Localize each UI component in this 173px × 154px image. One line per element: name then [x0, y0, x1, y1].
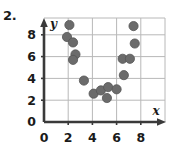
x-tick-label: 4 [88, 130, 97, 145]
x-axis-tick-labels: 0 2 4 6 8 [40, 130, 146, 145]
gridlines-group [44, 18, 165, 122]
data-point [65, 20, 74, 29]
data-point [68, 38, 77, 47]
axes-group [40, 18, 166, 126]
y-axis-tick-labels: 0 2 4 6 8 [27, 27, 36, 129]
data-point [102, 93, 111, 102]
data-point [112, 85, 121, 94]
y-tick-label: 4 [27, 71, 36, 86]
x-tick-label: 2 [64, 130, 73, 145]
y-tick-label: 6 [27, 49, 36, 64]
data-point [119, 71, 128, 80]
data-points-group [62, 20, 139, 102]
x-axis-label: x [151, 104, 160, 118]
data-point [130, 39, 139, 48]
x-tick-label: 0 [40, 130, 49, 145]
data-point [68, 55, 77, 64]
scatter-plot-canvas: 0 2 4 6 8 0 2 4 6 8 y x [0, 0, 173, 154]
x-tick-label: 8 [136, 130, 145, 145]
tick-marks-group [41, 35, 141, 125]
data-point [79, 76, 88, 85]
scatter-plot-figure: 2. [0, 0, 173, 154]
y-tick-label: 8 [27, 27, 36, 42]
data-point [125, 54, 134, 63]
y-tick-label: 0 [27, 114, 36, 129]
y-axis-arrowhead [40, 18, 48, 27]
y-axis-label: y [49, 17, 58, 31]
y-tick-label: 2 [27, 93, 36, 108]
data-point [104, 83, 113, 92]
x-tick-label: 6 [112, 130, 121, 145]
data-point [129, 21, 138, 30]
